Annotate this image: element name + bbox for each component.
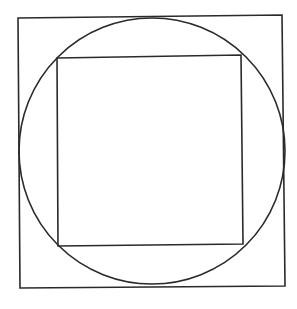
inner-square <box>57 55 243 246</box>
diagram-canvas <box>0 0 297 309</box>
